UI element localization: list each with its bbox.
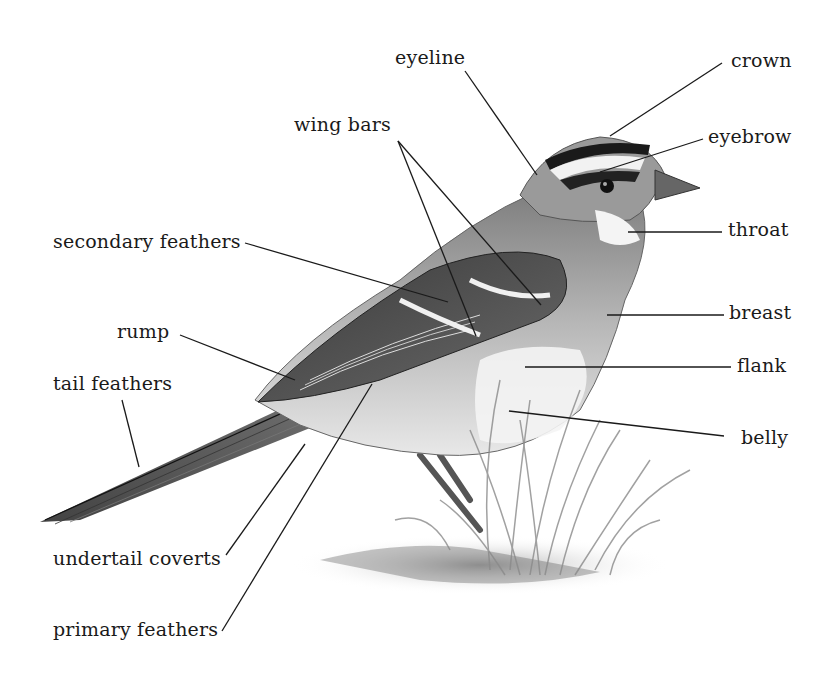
bird-anatomy-diagram: eyeline crown wing bars eyebrow secondar…	[0, 0, 832, 679]
label-primary-feathers: primary feathers	[53, 620, 218, 639]
tail	[40, 400, 330, 524]
label-eyeline: eyeline	[395, 48, 465, 67]
label-throat: throat	[728, 220, 789, 239]
label-eyebrow: eyebrow	[708, 127, 792, 146]
label-secondary-feathers: secondary feathers	[53, 232, 241, 251]
legs	[420, 455, 480, 530]
label-belly: belly	[741, 428, 788, 447]
leader-eyeline	[465, 71, 537, 175]
label-crown: crown	[731, 51, 792, 70]
leader-tail-feathers	[122, 400, 139, 467]
label-tail-feathers: tail feathers	[53, 374, 172, 393]
label-wing-bars: wing bars	[294, 115, 391, 134]
label-undertail-coverts: undertail coverts	[53, 549, 221, 568]
label-flank: flank	[737, 356, 786, 375]
leader-rump	[180, 335, 295, 380]
label-rump: rump	[117, 322, 169, 341]
leader-undertail-coverts	[226, 444, 305, 555]
label-breast: breast	[729, 303, 791, 322]
leader-crown	[610, 63, 722, 136]
